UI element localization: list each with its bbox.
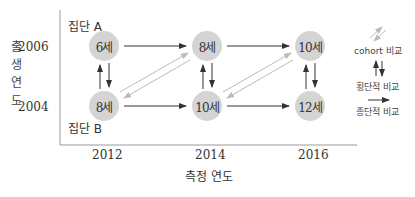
group-b-label: 집단 B [68,122,102,136]
node-group-b-2016: 12세 [295,91,325,121]
node-group-a-2014: 8세 [192,31,222,61]
legend-cohort: cohort 비교 [354,44,402,57]
x-tick-2012: 2012 [92,148,123,162]
y-tick-2004: 2004 [18,100,49,114]
node-group-b-2012: 8세 [89,91,119,121]
node-group-a-2012: 6세 [89,31,119,61]
x-tick-2016: 2016 [298,148,329,162]
legend-cross-sectional: 횡단적 비교 [356,80,399,93]
node-group-b-2014: 10세 [192,91,222,121]
node-group-a-2016: 10세 [295,31,325,61]
x-axis-label: 측정 연도 [185,170,233,184]
legend-longitudinal: 종단적 비교 [356,105,399,118]
y-tick-2006: 2006 [18,40,49,54]
x-tick-2014: 2014 [195,148,226,162]
